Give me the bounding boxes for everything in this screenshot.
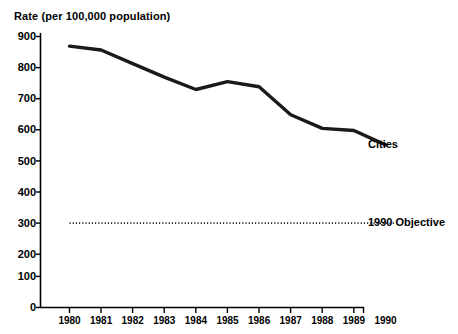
x-tick-label: 1990 [374, 315, 396, 326]
series-line-cities [70, 46, 386, 145]
x-tick-label: 1982 [122, 315, 144, 326]
series-label-objective: 1990 Objective [368, 217, 445, 228]
x-tick-label: 1980 [58, 315, 80, 326]
x-tick-label: 1984 [185, 315, 207, 326]
x-tick-label: 1986 [248, 315, 270, 326]
plot-area [0, 0, 458, 334]
x-tick-label: 1989 [343, 315, 365, 326]
series-label-cities: Cities [368, 139, 398, 150]
y-tick-marks [36, 37, 40, 308]
x-tick-label: 1983 [153, 315, 175, 326]
chart-figure: Rate (per 100,000 population) 900 800 70… [0, 0, 458, 334]
x-tick-label: 1985 [216, 315, 238, 326]
x-tick-label: 1988 [311, 315, 333, 326]
x-tick-label: 1987 [280, 315, 302, 326]
x-tick-label: 1981 [90, 315, 112, 326]
